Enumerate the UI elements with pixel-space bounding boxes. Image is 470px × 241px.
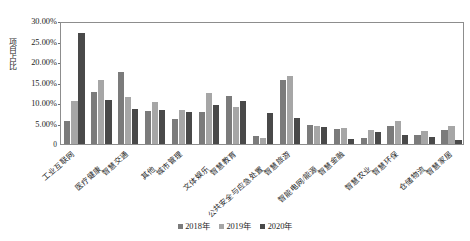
bar[interactable]: [159, 110, 165, 144]
bar[interactable]: [421, 131, 427, 144]
bar[interactable]: [341, 128, 347, 144]
bar[interactable]: [78, 33, 84, 144]
bar[interactable]: [199, 112, 205, 144]
bar[interactable]: [105, 100, 111, 144]
bar[interactable]: [395, 121, 401, 144]
bar[interactable]: [213, 105, 219, 144]
bar[interactable]: [132, 109, 138, 144]
bar[interactable]: [294, 118, 300, 144]
legend-swatch-icon: [260, 224, 265, 229]
bar[interactable]: [233, 107, 239, 144]
bar-group: [223, 23, 250, 144]
y-axis-tick-label: 30.00%: [31, 18, 57, 26]
bar[interactable]: [441, 130, 447, 144]
x-axis-category-label[interactable]: 智慧农业: [344, 165, 373, 193]
bar[interactable]: [253, 136, 259, 144]
legend-swatch-icon: [219, 224, 224, 229]
y-axis-tick-label: 0: [53, 141, 57, 149]
x-axis-category-label[interactable]: 城市管理: [155, 150, 184, 178]
bar[interactable]: [361, 138, 367, 144]
bar-group: [330, 23, 357, 144]
y-axis-tick-label: 25.00%: [31, 38, 57, 46]
y-axis-tick-labels: 05.00%10.00%15.00%20.00%25.00%30.00%: [14, 0, 60, 150]
legend-label: 2018年: [185, 222, 210, 231]
bar[interactable]: [368, 130, 374, 144]
bar[interactable]: [179, 110, 185, 144]
bar[interactable]: [455, 140, 461, 144]
bar[interactable]: [64, 121, 70, 144]
bar[interactable]: [307, 125, 313, 144]
x-axis-category-label[interactable]: 医疗健康: [75, 165, 104, 193]
x-axis-category-label[interactable]: 文体娱乐: [182, 165, 211, 193]
bar[interactable]: [448, 126, 454, 144]
x-axis-category-label[interactable]: 智慧家居: [425, 150, 454, 178]
legend-label: 2020年: [268, 222, 293, 231]
bar[interactable]: [348, 139, 354, 144]
bar-group: [384, 23, 411, 144]
bar[interactable]: [71, 101, 77, 144]
bar[interactable]: [280, 80, 286, 144]
bar[interactable]: [402, 135, 408, 144]
x-axis-category-label[interactable]: 智慧环保: [371, 150, 400, 178]
bar-group: [250, 23, 277, 144]
bar-chart: 项目占比 05.00%10.00%15.00%20.00%25.00%30.00…: [0, 0, 470, 241]
bar[interactable]: [414, 135, 420, 144]
chart-legend: 2018年2019年2020年: [0, 222, 470, 231]
bar-group: [115, 23, 142, 144]
bar-group: [169, 23, 196, 144]
y-axis-tick-label: 5.00%: [35, 120, 57, 128]
bar[interactable]: [387, 126, 393, 144]
bar-group: [88, 23, 115, 144]
plot-area: [60, 22, 464, 145]
legend-item[interactable]: 2018年: [178, 222, 210, 231]
x-axis-category-label[interactable]: 智慧交通: [102, 150, 131, 178]
bar[interactable]: [375, 132, 381, 144]
x-axis-category-label[interactable]: 工业互联网: [42, 150, 77, 183]
bar[interactable]: [240, 101, 246, 144]
x-axis-category-label[interactable]: 智慧金融: [317, 150, 346, 178]
bar[interactable]: [260, 138, 266, 144]
bar[interactable]: [145, 111, 151, 144]
bar[interactable]: [321, 127, 327, 144]
bar[interactable]: [125, 97, 131, 144]
bar[interactable]: [172, 119, 178, 144]
bar-group: [61, 23, 88, 144]
legend-item[interactable]: 2019年: [219, 222, 251, 231]
bar[interactable]: [226, 96, 232, 144]
x-axis-category-label[interactable]: 智慧旅游: [263, 150, 292, 178]
y-axis-tick-label: 15.00%: [31, 79, 57, 87]
legend-item[interactable]: 2020年: [260, 222, 292, 231]
bar[interactable]: [429, 137, 435, 144]
bar-group: [411, 23, 438, 144]
bar[interactable]: [206, 93, 212, 144]
bar-group: [276, 23, 303, 144]
x-axis-category-label[interactable]: 智慧教育: [209, 150, 238, 178]
bar-group: [438, 23, 465, 144]
bar-group: [196, 23, 223, 144]
bar[interactable]: [267, 113, 273, 144]
bar-group: [142, 23, 169, 144]
bar-group: [303, 23, 330, 144]
bar[interactable]: [287, 76, 293, 144]
y-axis-tick-label: 10.00%: [31, 100, 57, 108]
x-axis-category-label[interactable]: 智能电网/能源: [277, 165, 320, 205]
bar[interactable]: [334, 129, 340, 144]
bar-group: [357, 23, 384, 144]
x-axis-category-label[interactable]: 其他: [140, 165, 158, 182]
bar[interactable]: [186, 112, 192, 144]
legend-label: 2019年: [226, 222, 251, 231]
x-axis-category-label[interactable]: 仓储物流: [398, 165, 427, 193]
bar[interactable]: [91, 92, 97, 144]
bar[interactable]: [314, 126, 320, 144]
bar[interactable]: [98, 80, 104, 144]
bars-container: [61, 23, 463, 144]
legend-swatch-icon: [178, 224, 183, 229]
y-axis-tick-label: 20.00%: [31, 59, 57, 67]
bar[interactable]: [118, 72, 124, 144]
bar[interactable]: [152, 102, 158, 144]
